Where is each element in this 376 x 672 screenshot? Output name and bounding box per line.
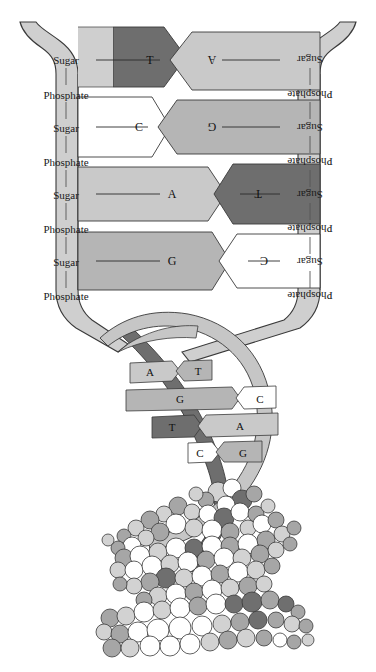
helix-base-label-2-right: C [256, 393, 263, 405]
left-label-sugar-3: Sugar [53, 189, 79, 201]
helix-base-T-left-3 [152, 415, 202, 438]
helix-base-label-1-right: T [195, 365, 202, 377]
ladder-row-4: G C [78, 232, 320, 290]
helix-rung-2: G C [126, 386, 276, 411]
helix-rung-4: C G [188, 441, 262, 463]
ladder-row-1: T A [78, 27, 320, 90]
base-label-row3-left: A [168, 187, 177, 201]
helix-base-A-left-1 [130, 361, 180, 383]
dna-diagram-svg: T A C G A T G C [0, 0, 376, 672]
helix-rung-1: A T [130, 360, 212, 383]
right-label-sugar-1: Sugar [297, 54, 323, 66]
untwisted-ladder-section: T A C G A T G C [20, 22, 356, 362]
left-label-phosphate-3: Phosphate [43, 223, 88, 235]
base-label-row1-left: T [146, 53, 154, 67]
helix-rung-3: T A [152, 413, 278, 438]
base-label-row4-right: C [260, 254, 268, 268]
left-label-sugar-4: Sugar [53, 256, 79, 268]
helix-base-label-2-left: G [176, 393, 184, 405]
left-label-phosphate-2: Phosphate [43, 156, 88, 168]
right-label-sugar-3: Sugar [297, 189, 323, 201]
base-label-row2-right: G [207, 120, 216, 134]
right-label-sugar-4: Sugar [297, 256, 323, 268]
right-label-phosphate-4: Phosphate [287, 290, 332, 302]
dna-structure-figure: T A C G A T G C [0, 0, 376, 672]
ladder-row-2: C G [78, 97, 320, 157]
right-label-sugar-2: Sugar [297, 122, 323, 134]
left-label-sugar-2: Sugar [53, 122, 79, 134]
base-label-row1-right: A [207, 53, 216, 67]
right-label-phosphate-1: Phosphate [287, 89, 332, 101]
space-filling-model [96, 479, 314, 657]
base-label-row2-left: C [135, 120, 143, 134]
right-label-phosphate-3: Phosphate [287, 223, 332, 235]
helix-base-label-3-right: A [236, 420, 244, 432]
helix-base-label-4-left: C [196, 447, 203, 459]
left-label-phosphate-1: Phosphate [43, 89, 88, 101]
left-label-sugar-1: Sugar [53, 54, 79, 66]
ladder-row-3: A T [78, 164, 320, 224]
left-label-phosphate-4: Phosphate [43, 290, 88, 302]
base-label-row3-right: T [254, 187, 262, 201]
right-label-phosphate-2: Phosphate [287, 156, 332, 168]
base-label-row4-left: G [168, 254, 177, 268]
helix-base-label-1-left: A [146, 366, 154, 378]
helix-base-label-4-right: G [239, 447, 247, 459]
helix-base-label-3-left: T [169, 421, 176, 433]
